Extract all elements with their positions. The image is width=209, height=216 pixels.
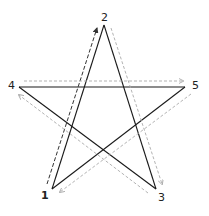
edge-5-1 bbox=[52, 87, 185, 189]
edge-2-3 bbox=[104, 25, 156, 189]
edge-1-2 bbox=[52, 25, 104, 189]
vertex-label-2: 2 bbox=[101, 11, 108, 24]
edge-3-4 bbox=[19, 87, 156, 189]
star-lines bbox=[19, 25, 185, 189]
arrow-5-to-1 bbox=[60, 94, 191, 192]
arrow-3-to-4 bbox=[19, 95, 148, 193]
vertex-label-3: 3 bbox=[158, 191, 165, 204]
direction-arrows bbox=[19, 28, 191, 193]
vertex-label-5: 5 bbox=[192, 79, 199, 92]
pentagram-diagram: 1 2 3 4 5 bbox=[0, 0, 209, 216]
vertex-label-4: 4 bbox=[8, 79, 15, 92]
vertex-label-1: 1 bbox=[41, 189, 49, 202]
